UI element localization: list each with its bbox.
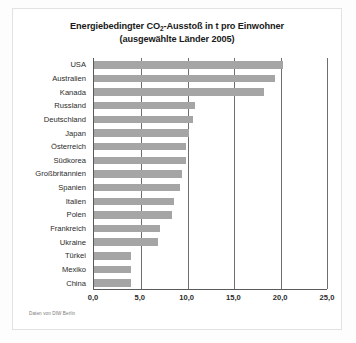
bar-row [94, 194, 327, 208]
bar-row [94, 153, 327, 167]
chart-title-line1-pre: Energiebedingter CO [70, 21, 160, 31]
category-label--sterreich: Österreich [12, 140, 90, 154]
category-label-usa: USA [12, 58, 90, 72]
bar-usa [94, 61, 283, 68]
chart-title-line1: Energiebedingter CO2-Ausstoß in t pro Ei… [70, 21, 284, 31]
bar-row [94, 140, 327, 154]
category-label-mexiko: Mexiko [12, 263, 90, 277]
category-label-italien: Italien [12, 194, 90, 208]
category-axis-labels: USAAustralienKanadaRusslandDeutschlandJa… [12, 58, 90, 290]
category-label-gro-britannien: Großbritannien [12, 167, 90, 181]
category-label-kanada: Kanada [12, 85, 90, 99]
bar-s-dkorea [94, 157, 186, 164]
chart-title-subscript: 2 [160, 25, 164, 32]
bar-italien [94, 198, 174, 205]
category-label-t-rkei: Türkei [12, 249, 90, 263]
source-note: Daten von DIW Berlin [29, 311, 75, 316]
bar-row [94, 99, 327, 113]
category-label-frankreich: Frankreich [12, 222, 90, 236]
bar-row [94, 58, 327, 72]
xtick-label-0-0: 0,0 [88, 293, 99, 302]
bar-row [94, 263, 327, 277]
category-label-deutschland: Deutschland [12, 113, 90, 127]
bar-row [94, 167, 327, 181]
chart-title: Energiebedingter CO2-Ausstoß in t pro Ei… [12, 20, 342, 45]
category-label-china: China [12, 276, 90, 290]
bar-t-rkei [94, 252, 131, 259]
bar-polen [94, 211, 172, 218]
xtick-label-20-0: 20,0 [273, 293, 288, 302]
bar-gro-britannien [94, 170, 182, 177]
chart-subtitle: (ausgewählte Länder 2005) [12, 33, 342, 45]
bar-deutschland [94, 116, 193, 123]
bar-japan [94, 129, 189, 136]
value-axis-labels: 0,05,010,015,020,025,0 [93, 293, 327, 307]
category-label-japan: Japan [12, 126, 90, 140]
bar--sterreich [94, 143, 186, 150]
bar-series [94, 58, 327, 289]
category-label-australien: Australien [12, 72, 90, 86]
bar-row [94, 181, 327, 195]
gridline-25-0 [327, 58, 328, 289]
bar-row [94, 85, 327, 99]
xtick-label-5-0: 5,0 [135, 293, 146, 302]
bar-kanada [94, 88, 264, 95]
bar-frankreich [94, 225, 160, 232]
bar-row [94, 276, 327, 290]
category-label-russland: Russland [12, 99, 90, 113]
category-label-spanien: Spanien [12, 181, 90, 195]
bar-mexiko [94, 266, 131, 273]
bar-row [94, 222, 327, 236]
bar-spanien [94, 184, 180, 191]
bar-row [94, 126, 327, 140]
chart-title-line1-post: -Ausstoß in t pro Einwohner [164, 21, 284, 31]
figure-page: Energiebedingter CO2-Ausstoß in t pro Ei… [0, 0, 356, 343]
category-label-polen: Polen [12, 208, 90, 222]
category-label-ukraine: Ukraine [12, 235, 90, 249]
bar-australien [94, 75, 275, 82]
bar-row [94, 113, 327, 127]
bar-row [94, 235, 327, 249]
bar-row [94, 72, 327, 86]
xtick-label-15-0: 15,0 [226, 293, 241, 302]
category-label-s-dkorea: Südkorea [12, 153, 90, 167]
bar-china [94, 279, 131, 286]
bar-russland [94, 102, 195, 109]
bar-row [94, 208, 327, 222]
xtick-label-10-0: 10,0 [179, 293, 194, 302]
plot-area [93, 58, 327, 290]
bar-row [94, 249, 327, 263]
bar-ukraine [94, 238, 158, 245]
xtick-label-25-0: 25,0 [320, 293, 335, 302]
